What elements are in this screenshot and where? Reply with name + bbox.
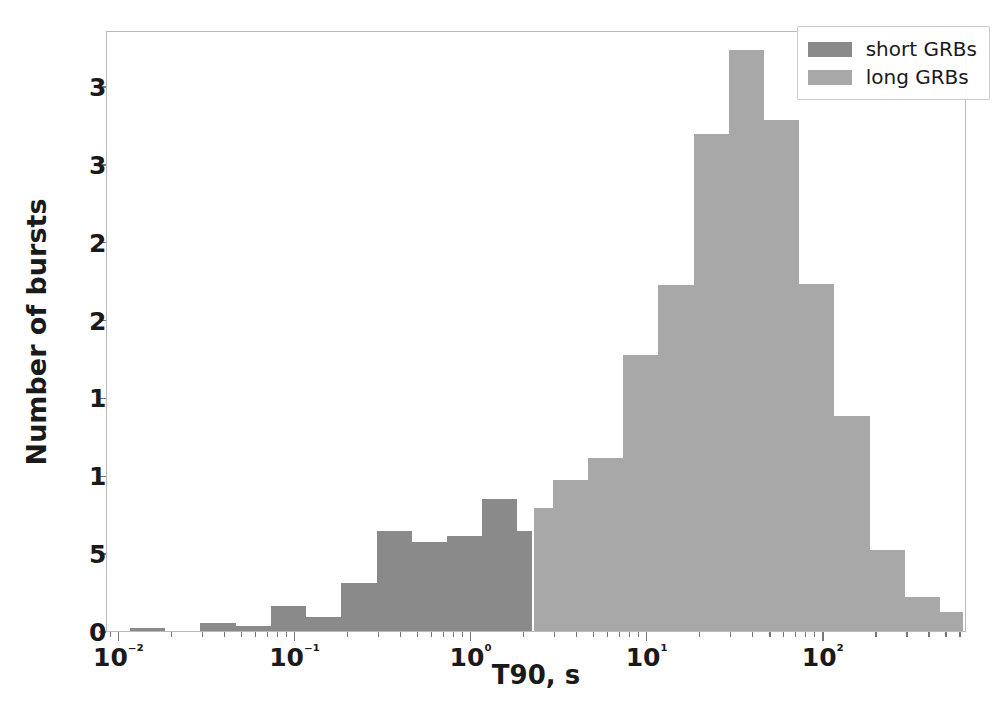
histogram-bar	[200, 623, 235, 631]
x-axis-major-tick-mark	[118, 632, 119, 641]
x-axis-minor-tick-mark	[814, 632, 815, 637]
histogram-bar	[764, 120, 799, 631]
x-axis-major-tick-mark	[822, 632, 823, 641]
x-axis-minor-tick-mark	[224, 632, 225, 637]
figure-canvas: Number of bursts 050100150200250300350 1…	[0, 0, 1006, 712]
x-axis-minor-tick-mark	[554, 632, 555, 637]
histogram-bar	[236, 626, 271, 631]
x-axis-minor-tick-mark	[267, 632, 268, 637]
x-axis-minor-tick-mark	[241, 632, 242, 637]
x-axis-minor-tick-mark	[523, 632, 524, 637]
x-axis-major-tick-mark	[646, 632, 647, 641]
histogram-bars	[107, 32, 965, 631]
legend: short GRBslong GRBs	[797, 26, 990, 100]
x-axis-minor-tick-mark	[629, 632, 630, 637]
histogram-bar	[517, 531, 532, 631]
x-axis-minor-tick-mark	[347, 632, 348, 637]
x-axis-tick-label: 10⁰	[450, 642, 492, 672]
histogram-bar	[271, 606, 306, 631]
histogram-bar	[482, 499, 517, 631]
histogram-bar	[623, 355, 658, 631]
legend-item: short GRBs	[808, 35, 977, 63]
x-axis-minor-tick-mark	[576, 632, 577, 637]
x-axis-minor-tick-mark	[619, 632, 620, 637]
x-axis-major-tick-mark	[470, 632, 471, 641]
x-axis-minor-tick-mark	[945, 632, 946, 637]
x-axis-minor-tick-mark	[607, 632, 608, 637]
x-axis-minor-tick-mark	[286, 632, 287, 637]
x-axis-tick-label: 10⁻²	[93, 642, 144, 672]
histogram-bar	[447, 536, 482, 631]
plot-area	[106, 31, 966, 632]
x-axis-minor-tick-mark	[730, 632, 731, 637]
x-axis-minor-tick-mark	[255, 632, 256, 637]
histogram-bar	[870, 550, 905, 631]
x-axis-minor-tick-mark	[431, 632, 432, 637]
histogram-bar	[130, 628, 165, 631]
histogram-bar	[534, 508, 553, 631]
x-axis-minor-tick-mark	[795, 632, 796, 637]
x-axis-minor-tick-mark	[906, 632, 907, 637]
x-axis-major-tick-mark	[294, 632, 295, 641]
x-axis-minor-tick-mark	[699, 632, 700, 637]
legend-swatch-icon	[808, 42, 852, 57]
histogram-bar	[940, 612, 963, 631]
histogram-bar	[588, 458, 623, 631]
x-axis-minor-tick-mark	[805, 632, 806, 637]
legend-item-label: long GRBs	[866, 65, 969, 89]
x-axis-label: T90, s	[492, 660, 580, 690]
histogram-bar	[834, 416, 869, 631]
x-axis-minor-tick-mark	[378, 632, 379, 637]
y-axis-label-container: Number of bursts	[42, 31, 43, 632]
histogram-bar	[658, 285, 693, 631]
x-axis-minor-tick-mark	[171, 632, 172, 637]
x-axis-minor-tick-mark	[959, 632, 960, 637]
x-axis-tick-label: 10²	[802, 642, 844, 672]
x-axis-minor-tick-mark	[462, 632, 463, 637]
x-axis-minor-tick-mark	[400, 632, 401, 637]
x-axis-minor-tick-mark	[769, 632, 770, 637]
x-axis-minor-tick-mark	[928, 632, 929, 637]
histogram-bar	[553, 480, 588, 631]
histogram-bar	[412, 542, 447, 631]
x-axis-minor-tick-mark	[783, 632, 784, 637]
histogram-bar	[377, 531, 412, 631]
histogram-bar	[799, 284, 834, 631]
x-axis-minor-tick-mark	[453, 632, 454, 637]
histogram-bar	[905, 597, 940, 631]
x-axis-minor-tick-mark	[638, 632, 639, 637]
x-axis-minor-tick-mark	[875, 632, 876, 637]
histogram-bar	[729, 50, 764, 631]
legend-item: long GRBs	[808, 63, 977, 91]
x-axis-tick-label: 10⁻¹	[269, 642, 320, 672]
legend-swatch-icon	[808, 70, 852, 85]
x-axis-minor-tick-mark	[752, 632, 753, 637]
x-axis-minor-tick-mark	[443, 632, 444, 637]
x-axis-minor-tick-mark	[277, 632, 278, 637]
x-axis-minor-tick-mark	[110, 632, 111, 637]
histogram-bar	[306, 617, 341, 631]
x-axis-tick-label: 10¹	[626, 642, 668, 672]
legend-item-label: short GRBs	[866, 37, 977, 61]
x-axis-minor-tick-mark	[593, 632, 594, 637]
x-axis-minor-tick-mark	[202, 632, 203, 637]
histogram-bar	[341, 583, 376, 631]
histogram-bar	[694, 134, 729, 631]
y-axis-label: Number of bursts	[21, 198, 52, 465]
x-axis-minor-tick-mark	[417, 632, 418, 637]
